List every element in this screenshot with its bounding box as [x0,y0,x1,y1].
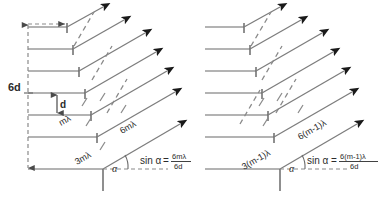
d-label: d [60,99,66,110]
right-formula-denominator: 6d [350,162,358,171]
right-formula-lhs: sin α [307,155,329,166]
left-alpha-label: α [112,164,118,174]
right-formula-equals: = [331,155,337,166]
left-formula-denominator: 6d [174,162,182,171]
grating-diagram-figure: 6d d mλ 3mλ 6mλ α sin α = 6mλ 6d [0,0,387,198]
right-alpha-label: α [289,164,295,174]
diagram-canvas: 6d d mλ 3mλ 6mλ α sin α = 6mλ 6d [0,0,387,198]
left-formula-lhs: sin α [140,155,162,166]
right-formula-numerator: 6(m-1)λ [340,152,366,161]
left-formula-numerator: 6mλ [172,152,186,161]
left-formula-equals: = [163,155,169,166]
six-d-label: 6d [8,81,21,93]
